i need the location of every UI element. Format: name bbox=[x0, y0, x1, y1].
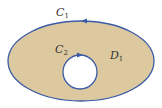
region-diagram: C1 C2 D1 bbox=[0, 0, 162, 108]
hole bbox=[63, 55, 97, 89]
label-c1: C1 bbox=[56, 6, 69, 20]
